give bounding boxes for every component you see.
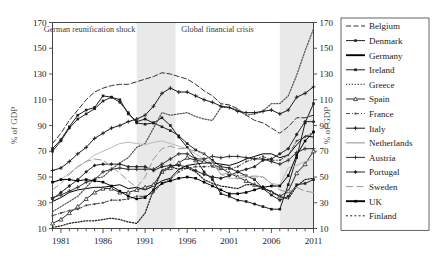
legend-item-portugal[interactable]: Portugal	[346, 167, 400, 177]
data-point-marker	[253, 178, 256, 181]
data-point-marker	[93, 190, 97, 194]
data-point-marker	[270, 185, 273, 188]
chart-legend: BelgiumDenmarkGermanyIrelandGreeceSpainF…	[341, 18, 429, 230]
y-tick-label-left: 10	[38, 224, 48, 234]
legend-item-label: UK	[369, 197, 382, 207]
series-italy	[51, 85, 316, 173]
data-point-marker	[312, 102, 315, 105]
data-point-marker	[236, 192, 239, 195]
data-point-marker	[60, 178, 63, 181]
data-point-marker	[211, 185, 214, 188]
data-point-marker	[228, 168, 230, 170]
y-tick-label-left: 30	[38, 198, 48, 208]
data-point-marker	[76, 118, 79, 121]
data-point-marker	[118, 166, 122, 170]
y-tick-label-left: 150	[33, 43, 47, 53]
y-tick-label-left: 90	[38, 121, 48, 131]
legend-item-sweden[interactable]: Sweden	[346, 182, 398, 192]
legend-item-label: Netherlands	[369, 138, 413, 148]
data-point-marker	[185, 156, 189, 160]
legend-item-uk[interactable]: UK	[346, 197, 382, 207]
legend-item-ireland[interactable]: Ireland	[346, 65, 395, 75]
data-point-marker	[101, 162, 105, 166]
legend-item-spain[interactable]: Spain	[346, 94, 390, 104]
data-point-marker	[236, 170, 240, 174]
data-point-marker	[296, 140, 298, 142]
data-point-marker	[227, 105, 231, 109]
x-tick-label: 2011	[305, 236, 323, 246]
series-sweden	[53, 146, 314, 192]
data-point-marker	[68, 178, 71, 181]
data-point-marker	[185, 90, 189, 94]
data-point-marker	[270, 208, 273, 211]
data-point-marker	[68, 209, 70, 211]
legend-item-austria[interactable]: Austria	[346, 153, 396, 163]
annotation-label: German reunification shock	[44, 25, 136, 34]
legend-item-france[interactable]: France	[346, 109, 394, 119]
plot-frame	[53, 23, 314, 229]
data-point-marker	[178, 171, 180, 173]
data-point-marker	[85, 113, 88, 116]
data-point-marker	[211, 166, 213, 168]
legend-item-netherlands[interactable]: Netherlands	[346, 138, 413, 148]
legend-item-italy[interactable]: Italy	[346, 124, 386, 134]
data-point-marker	[118, 162, 122, 166]
data-point-marker	[287, 174, 290, 177]
y-tick-label-right: 30	[320, 198, 330, 208]
legend-item-label: Finland	[369, 211, 397, 221]
legend-item-label: Italy	[369, 124, 386, 134]
data-point-marker	[279, 199, 282, 202]
legend-item-germany[interactable]: Germany	[346, 51, 403, 61]
data-point-marker	[186, 142, 189, 145]
y-tick-label-right: 70	[320, 146, 330, 156]
data-point-marker	[152, 122, 155, 125]
axis-ticks	[49, 23, 317, 234]
data-point-marker	[119, 199, 121, 201]
data-point-marker	[76, 180, 79, 183]
data-point-marker	[68, 125, 71, 128]
data-point-marker	[354, 200, 357, 203]
data-point-marker	[203, 166, 205, 168]
data-point-marker	[279, 159, 281, 161]
y-tick-label-right: 50	[320, 172, 330, 182]
data-point-marker	[220, 192, 223, 195]
data-point-marker	[304, 136, 306, 138]
data-point-marker	[227, 154, 231, 158]
data-point-marker	[354, 39, 357, 42]
data-point-marker	[236, 199, 239, 202]
y-tick-label-left: 50	[38, 172, 48, 182]
y-tick-label-right: 130	[320, 69, 334, 79]
legend-item-label: Denmark	[369, 36, 403, 46]
data-point-marker	[279, 208, 282, 211]
data-point-marker	[194, 177, 197, 180]
data-point-marker	[220, 189, 223, 192]
data-point-marker	[135, 198, 138, 201]
legend-item-greece[interactable]: Greece	[346, 80, 394, 90]
y-tick-label-right: 170	[320, 18, 334, 28]
data-point-marker	[177, 177, 180, 180]
data-point-marker	[169, 124, 172, 127]
legend-item-belgium[interactable]: Belgium	[346, 21, 400, 31]
data-point-marker	[169, 180, 172, 183]
data-point-marker	[127, 113, 130, 116]
legend-item-denmark[interactable]: Denmark	[346, 36, 403, 46]
data-point-marker	[279, 185, 282, 188]
data-point-marker	[354, 170, 358, 174]
y-tick-label-right: 150	[320, 43, 334, 53]
data-point-marker	[354, 113, 356, 115]
data-point-marker	[102, 202, 104, 204]
data-point-marker	[51, 169, 55, 173]
data-point-marker	[354, 69, 357, 72]
data-point-marker	[110, 96, 113, 99]
data-point-marker	[354, 155, 358, 159]
y-axis-title-left: % of GDP	[9, 107, 19, 145]
data-point-marker	[228, 195, 231, 198]
data-point-marker	[85, 178, 88, 181]
y-tick-label-right: 110	[320, 95, 334, 105]
data-point-marker	[210, 154, 214, 158]
legend-item-finland[interactable]: Finland	[346, 211, 397, 221]
data-point-marker	[161, 116, 164, 119]
data-point-marker	[51, 150, 54, 153]
data-point-marker	[295, 154, 298, 157]
data-point-marker	[93, 203, 95, 205]
